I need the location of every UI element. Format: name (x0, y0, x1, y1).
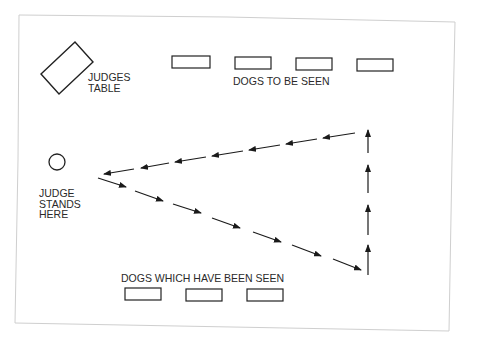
label-line: JUDGES (88, 72, 131, 83)
dog-box (125, 288, 161, 300)
dogs-seen-label: DOGS WHICH HAVE BEEN SEEN (121, 273, 284, 284)
judge-position-icon (49, 154, 65, 170)
label-line: TABLE (88, 83, 131, 94)
dog-box (247, 289, 283, 301)
dogs-to-be-seen-label: DOGS TO BE SEEN (233, 76, 329, 87)
dog-box (296, 58, 332, 70)
outbound-path-arrows (98, 178, 361, 270)
dog-box (186, 289, 222, 301)
label-line: JUDGE (39, 188, 81, 199)
return-path-arrows (104, 133, 355, 174)
judges-table-label: JUDGES TABLE (88, 72, 131, 93)
judge-stands-here-label: JUDGE STANDS HERE (39, 188, 81, 220)
dogs-to-be-seen-boxes (172, 56, 393, 71)
judges-table-icon (41, 42, 93, 94)
dog-box (235, 57, 271, 69)
dog-box (357, 59, 393, 71)
dogs-seen-boxes (125, 288, 283, 301)
ring-diagram (0, 0, 481, 343)
dog-box (172, 56, 210, 68)
label-line: HERE (39, 209, 81, 220)
